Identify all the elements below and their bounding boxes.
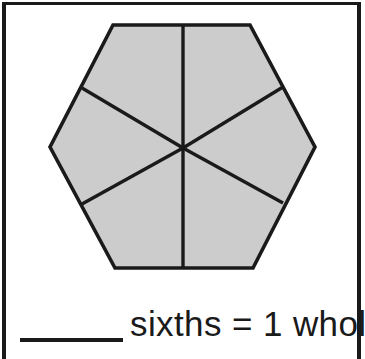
answer-sentence-row: sixths = 1 whole [8,298,357,359]
worksheet-page: sixths = 1 whole [0,0,365,359]
page-frame-top-border [2,2,360,5]
blank-answer-line[interactable] [20,338,123,342]
figure-area [6,6,357,296]
hexagon-figure [6,6,357,296]
answer-sentence-text: sixths = 1 whole [130,298,362,350]
